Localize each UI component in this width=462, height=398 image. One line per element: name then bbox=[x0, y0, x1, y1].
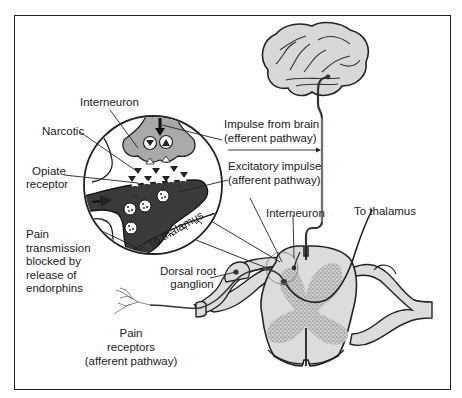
label-impulse-from-brain-2: (efferent pathway) bbox=[224, 132, 316, 145]
label-narcotic: Narcotic bbox=[42, 125, 84, 138]
label-pain-blocked-2: transmission bbox=[26, 242, 91, 256]
label-interneuron-cord: Interneuron bbox=[266, 207, 325, 220]
label-opiate-receptor-2: receptor bbox=[26, 178, 68, 191]
label-pain-blocked-3: blocked by bbox=[26, 255, 91, 269]
label-dorsal-root-2: ganglion bbox=[162, 278, 222, 291]
label-pain-receptors-3: (afferent pathway) bbox=[66, 355, 196, 368]
label-opiate-receptor-1: Opiate bbox=[32, 165, 66, 178]
label-to-thalamus-right: To thalamus bbox=[354, 205, 416, 218]
label-excitatory-impulse-1: Excitatory impulse bbox=[228, 160, 321, 173]
label-pain-receptors-2: receptors bbox=[76, 341, 186, 354]
label-dorsal-root-1: Dorsal root bbox=[158, 265, 218, 278]
label-pain-blocked-4: release of bbox=[26, 269, 91, 283]
label-excitatory-impulse-2: (afferent pathway) bbox=[228, 174, 320, 187]
diagram-artwork bbox=[0, 0, 462, 398]
nerve-ending-icon bbox=[114, 288, 150, 314]
label-pain-blocked-1: Pain bbox=[26, 228, 91, 242]
label-pain-blocked: Pain transmission blocked by release of … bbox=[26, 228, 91, 296]
brain-icon bbox=[262, 23, 368, 96]
label-interneuron-top: Interneuron bbox=[80, 96, 139, 109]
label-pain-receptors-1: Pain bbox=[76, 327, 186, 340]
label-pain-blocked-5: endorphins bbox=[26, 282, 91, 296]
label-impulse-from-brain-1: Impulse from brain bbox=[224, 118, 319, 131]
